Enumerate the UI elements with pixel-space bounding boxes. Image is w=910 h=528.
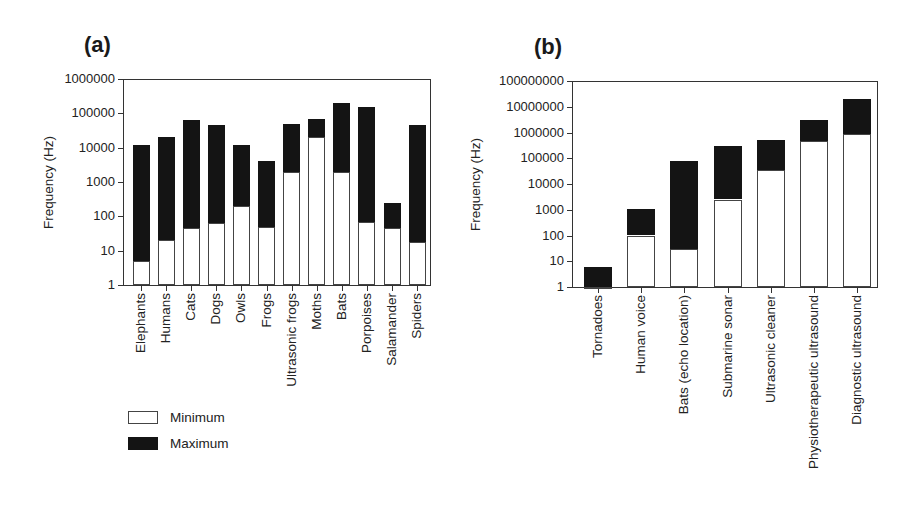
x-tick-label: Tornadoes <box>590 295 605 495</box>
bar-minimum <box>183 228 200 285</box>
bar-maximum <box>333 103 350 172</box>
bar-maximum <box>258 161 275 226</box>
x-tick <box>814 288 815 293</box>
x-tick-label: Cats <box>183 293 198 493</box>
bar-minimum <box>714 200 742 287</box>
bar-minimum <box>670 249 698 287</box>
y-tick-label: 1 <box>5 278 115 292</box>
bar-maximum <box>843 99 871 134</box>
legend-swatch-maximum <box>128 437 158 450</box>
bar-maximum <box>183 120 200 228</box>
bar-maximum <box>800 120 828 141</box>
bar-minimum <box>757 170 785 287</box>
y-tick-label: 1 <box>454 280 564 294</box>
x-tick-label: Salamander <box>384 293 399 493</box>
legend: Minimum Maximum <box>128 404 229 456</box>
bar-maximum <box>308 119 325 138</box>
legend-label-maximum: Maximum <box>170 436 229 451</box>
x-tick-label: Humans <box>158 293 173 493</box>
y-tick-label: 100 <box>5 209 115 223</box>
bar-minimum <box>584 287 612 289</box>
x-tick-label: Submarine sonar <box>720 295 735 495</box>
y-tick-label: 100000000 <box>454 74 564 88</box>
x-tick <box>292 286 293 291</box>
x-tick-label: Diagnostic ultrasound <box>849 295 864 495</box>
x-tick <box>417 286 418 291</box>
x-tick <box>857 288 858 293</box>
bar-maximum <box>133 145 150 261</box>
y-tick-label: 10 <box>5 244 115 258</box>
bar-minimum <box>843 134 871 287</box>
y-tick-label: 1000 <box>5 175 115 189</box>
x-tick <box>771 288 772 293</box>
x-tick <box>392 286 393 291</box>
x-tick <box>342 286 343 291</box>
x-tick <box>241 286 242 291</box>
x-tick <box>728 288 729 293</box>
bar-maximum <box>409 125 426 242</box>
y-tick-label: 10000000 <box>454 100 564 114</box>
x-tick-label: Human voice <box>633 295 648 495</box>
panel-b-label: (b) <box>534 34 562 60</box>
x-tick-label: Bats <box>334 293 349 493</box>
y-tick-label: 10000 <box>5 141 115 155</box>
y-tick-label: 10 <box>454 254 564 268</box>
x-tick-label: Frogs <box>259 293 274 493</box>
x-tick <box>141 286 142 291</box>
x-tick <box>216 286 217 291</box>
bar-minimum <box>358 222 375 285</box>
bar-minimum <box>800 141 828 287</box>
x-tick-label: Ultrasonic frogs <box>284 293 299 493</box>
x-tick <box>166 286 167 291</box>
x-tick <box>267 286 268 291</box>
bar-maximum <box>384 203 401 229</box>
bar-minimum <box>409 242 426 285</box>
bar-maximum <box>714 146 742 199</box>
x-tick <box>191 286 192 291</box>
y-tick-label: 1000 <box>454 203 564 217</box>
bar-maximum <box>358 107 375 221</box>
y-tick-label: 1000000 <box>454 126 564 140</box>
bar-minimum <box>384 228 401 285</box>
y-tick-label: 1000000 <box>5 72 115 86</box>
x-tick <box>684 288 685 293</box>
y-tick-label: 100000 <box>5 106 115 120</box>
legend-swatch-minimum <box>128 411 158 424</box>
bar-maximum <box>627 209 655 236</box>
legend-item-minimum: Minimum <box>128 404 229 430</box>
bar-minimum <box>233 206 250 285</box>
x-tick-label: Elephants <box>133 293 148 493</box>
legend-label-minimum: Minimum <box>170 410 225 425</box>
bar-minimum <box>158 240 175 285</box>
bar-minimum <box>208 223 225 285</box>
x-tick-label: Physiotherapeutic ultrasound <box>806 295 821 495</box>
bar-minimum <box>333 172 350 285</box>
bar-minimum <box>627 236 655 288</box>
x-tick-label: Bats (echo location) <box>676 295 691 495</box>
bar-maximum <box>757 140 785 170</box>
x-tick <box>367 286 368 291</box>
bar-maximum <box>233 145 250 206</box>
x-tick <box>317 286 318 291</box>
x-tick-label: Owls <box>233 293 248 493</box>
bar-maximum <box>158 137 175 240</box>
y-tick-label: 10000 <box>454 177 564 191</box>
legend-item-maximum: Maximum <box>128 430 229 456</box>
panel-a-label: (a) <box>84 32 111 58</box>
x-tick-label: Dogs <box>208 293 223 493</box>
bar-minimum <box>283 172 300 285</box>
x-tick-label: Moths <box>309 293 324 493</box>
bar-minimum <box>258 227 275 285</box>
y-tick-label: 100 <box>454 229 564 243</box>
x-tick <box>641 288 642 293</box>
x-tick-label: Spiders <box>409 293 424 493</box>
x-tick-label: Porpoises <box>359 293 374 493</box>
y-tick-label: 100000 <box>454 151 564 165</box>
bar-maximum <box>283 124 300 172</box>
bar-minimum <box>133 261 150 285</box>
bar-maximum <box>670 161 698 249</box>
x-tick-label: Ultrasonic cleaner <box>763 295 778 495</box>
bar-maximum <box>584 267 612 287</box>
bar-minimum <box>308 137 325 285</box>
bar-maximum <box>208 125 225 223</box>
